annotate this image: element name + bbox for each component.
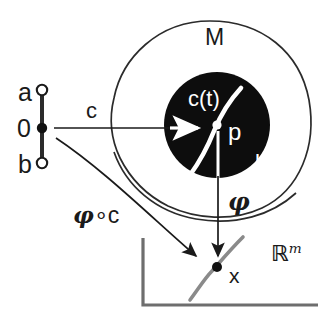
target-space-label-r-m: ℝm xyxy=(271,242,302,265)
interval-label-a: a xyxy=(18,80,32,105)
point-p-marker xyxy=(212,120,221,129)
open-circle-b-icon xyxy=(37,158,47,168)
interval-label-b: b xyxy=(18,152,32,177)
chart-map-label-phi: φ xyxy=(228,190,250,214)
diagram-canvas xyxy=(0,0,326,324)
filled-dot-zero-icon xyxy=(37,123,47,133)
composition-ring-c: ∘c xyxy=(94,202,120,228)
composition-label-phi-compose-c: φ∘c xyxy=(73,203,119,227)
manifold-label-m: M xyxy=(205,26,224,49)
math-diagram-figure: a 0 b c M c(t) p u φ φ∘c x ℝm xyxy=(0,0,326,324)
image-point-label-x: x xyxy=(229,265,240,286)
map-label-c: c xyxy=(86,100,97,122)
interval-label-zero: 0 xyxy=(17,116,31,141)
open-circle-a-icon xyxy=(37,85,47,95)
exponent-m-glyph: m xyxy=(289,240,302,256)
point-label-p: p xyxy=(228,120,241,144)
composition-phi-glyph: φ xyxy=(73,201,94,228)
neighborhood-label-u: u xyxy=(255,148,268,171)
point-x-marker xyxy=(212,262,222,272)
curve-label-c-of-t: c(t) xyxy=(188,88,220,110)
blackboard-r-glyph: ℝ xyxy=(271,241,289,266)
